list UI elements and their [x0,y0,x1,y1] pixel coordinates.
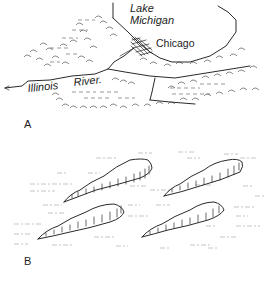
panel-b-drumlins: B [14,152,266,267]
drumlin-3 [38,204,124,239]
chicago-city-hatch [131,37,152,56]
tributary-channel [150,78,195,104]
panel-label-a: A [24,118,32,130]
city-label: Chicago [156,37,195,49]
drumlin-2 [164,159,243,196]
figure-canvas: Lake Michigan Chicago Illinois River. A [0,0,273,289]
panel-label-b: B [24,255,31,267]
drumlin-1 [64,159,152,202]
lake-label-line2: Michigan [130,14,174,26]
river-label-word1: Illinois [27,79,59,94]
upper-channel [120,48,134,56]
panel-a-map: Lake Michigan Chicago Illinois River. A [5,2,259,130]
till-plain-dashes [14,152,266,248]
lake-label-line1: Lake [130,2,154,14]
river-label-word2: River. [73,73,102,88]
drumlin-4 [142,202,224,237]
